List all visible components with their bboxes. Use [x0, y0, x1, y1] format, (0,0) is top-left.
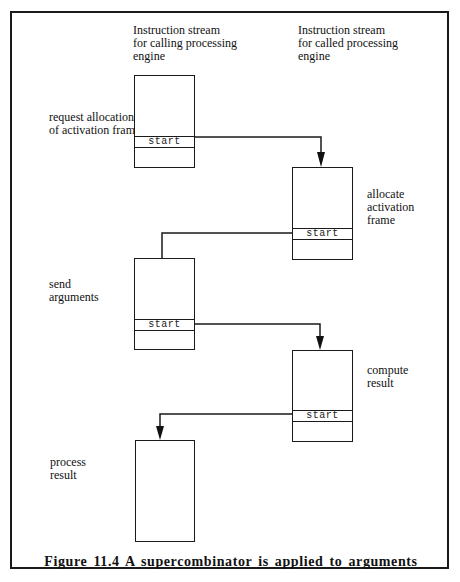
connector-wires [0, 0, 460, 582]
start-marker: start [135, 136, 194, 148]
connector-compute-to-process [160, 414, 292, 427]
instruction-block-process [135, 440, 195, 542]
connector-request-to-allocate [194, 137, 321, 154]
figure-caption: Figure 11.4 A supercombinator is applied… [0, 554, 460, 570]
arrowhead-icon [316, 336, 324, 350]
instruction-block-request: start [134, 75, 195, 168]
connector-send-to-compute [194, 324, 320, 337]
start-marker: start [293, 228, 352, 240]
connector-allocate-to-send [162, 233, 292, 258]
instruction-block-send: start [134, 258, 195, 350]
start-marker: start [293, 410, 352, 422]
start-marker: start [135, 319, 194, 331]
arrowhead-icon [156, 426, 164, 440]
instruction-block-compute: start [292, 350, 353, 442]
arrowhead-icon [317, 152, 325, 167]
instruction-block-allocate: start [292, 167, 353, 260]
